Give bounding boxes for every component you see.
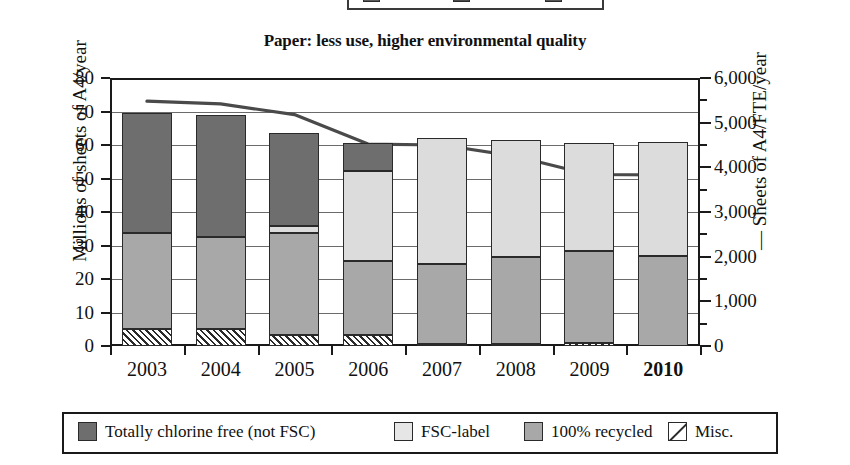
y-tick-right: [700, 77, 711, 79]
x-tick: [479, 346, 481, 355]
bar-segment-tcf[interactable]: [343, 143, 393, 170]
bar-segment-misc[interactable]: [122, 329, 172, 346]
clipped-legend-swatch-2: [453, 0, 470, 2]
y-tick-label-right: 1,000: [714, 291, 757, 310]
x-tick-label-2003: 2003: [107, 358, 187, 380]
y-tick-label-left: 10: [75, 303, 94, 322]
legend-item-rec[interactable]: 100% recycled: [524, 422, 652, 441]
bar-segment-fsc[interactable]: [638, 142, 688, 256]
y-tick-label-right: 4,000: [714, 157, 757, 176]
y-tick-left: [101, 345, 110, 347]
legend-swatch-misc-icon: [668, 422, 687, 441]
x-tick-label-2006: 2006: [328, 358, 408, 380]
bar-2008[interactable]: [491, 78, 541, 346]
bar-segment-misc[interactable]: [491, 344, 541, 346]
legend-swatch-fsc-icon: [394, 422, 413, 441]
clipped-legend-swatch-1: [363, 0, 380, 2]
y-tick-right: [700, 300, 711, 302]
bar-segment-misc[interactable]: [269, 335, 319, 346]
y-tick-label-left: 60: [75, 135, 94, 154]
bar-segment-fsc[interactable]: [491, 140, 541, 257]
legend-swatch-rec-icon: [524, 422, 543, 441]
y-tick-right: [700, 144, 707, 146]
bar-segment-rec[interactable]: [343, 261, 393, 336]
bar-segment-tcf[interactable]: [269, 133, 319, 226]
y-tick-right: [700, 211, 711, 213]
bar-segment-fsc[interactable]: [417, 138, 467, 264]
bar-2003[interactable]: [122, 78, 172, 346]
y-tick-left: [101, 111, 110, 113]
y-tick-left: [101, 245, 110, 247]
y-tick-label-right: 3,000: [714, 202, 757, 221]
x-tick-label-2008: 2008: [476, 358, 556, 380]
bar-segment-fsc[interactable]: [343, 171, 393, 261]
bar-2010[interactable]: [638, 78, 688, 346]
y-tick-left: [101, 77, 110, 79]
x-tick-label-2010: 2010: [623, 358, 703, 380]
x-tick: [258, 346, 260, 355]
clipped-legend-box-above: [347, 0, 604, 10]
bar-segment-tcf[interactable]: [122, 113, 172, 233]
y-tick-right: [700, 99, 707, 101]
x-tick: [553, 346, 555, 355]
y-tick-right: [700, 166, 711, 168]
chart-legend: Totally chlorine free (not FSC)FSC-label…: [62, 412, 778, 454]
y-tick-right: [700, 122, 711, 124]
y-tick-left: [101, 278, 110, 280]
chart-title: Paper: less use, higher environmental qu…: [0, 31, 850, 51]
bar-segment-misc[interactable]: [417, 344, 467, 346]
bar-segment-misc[interactable]: [564, 343, 614, 346]
bar-2007[interactable]: [417, 78, 467, 346]
y-tick-label-left: 80: [75, 68, 94, 87]
y-tick-left: [101, 178, 110, 180]
bar-2005[interactable]: [269, 78, 319, 346]
legend-label: FSC-label: [421, 422, 490, 441]
y-tick-label-left: 70: [75, 102, 94, 121]
bar-segment-misc[interactable]: [343, 335, 393, 346]
x-tick-label-2004: 2004: [181, 358, 261, 380]
bar-segment-rec[interactable]: [417, 264, 467, 344]
x-tick: [184, 346, 186, 355]
y-tick-label-left: 0: [85, 336, 95, 355]
legend-item-fsc[interactable]: FSC-label: [394, 422, 490, 441]
y-tick-right: [700, 233, 707, 235]
bar-segment-rec[interactable]: [269, 233, 319, 335]
bar-segment-fsc[interactable]: [269, 226, 319, 233]
legend-label: 100% recycled: [551, 422, 652, 441]
y-tick-label-right: 0: [714, 336, 724, 355]
y-tick-label-right: 5,000: [714, 113, 757, 132]
y-tick-right: [700, 278, 707, 280]
bar-segment-rec[interactable]: [491, 257, 541, 344]
legend-swatch-tcf-icon: [78, 422, 97, 441]
x-tick-label-2007: 2007: [402, 358, 482, 380]
bar-segment-misc[interactable]: [196, 329, 246, 346]
y-tick-left: [101, 144, 110, 146]
legend-label: Totally chlorine free (not FSC): [105, 422, 315, 441]
y-tick-right: [700, 323, 707, 325]
x-tick: [331, 346, 333, 355]
bar-2009[interactable]: [564, 78, 614, 346]
bar-2006[interactable]: [343, 78, 393, 346]
legend-item-tcf[interactable]: Totally chlorine free (not FSC): [78, 422, 315, 441]
y-tick-right: [700, 189, 707, 191]
bar-segment-tcf[interactable]: [196, 115, 246, 237]
legend-item-misc[interactable]: Misc.: [668, 422, 733, 441]
y-tick-label-left: 50: [75, 169, 94, 188]
y-tick-label-right: 6,000: [714, 68, 757, 87]
y-tick-left: [101, 312, 110, 314]
y-tick-right: [700, 256, 711, 258]
x-tick: [405, 346, 407, 355]
bar-segment-rec[interactable]: [122, 233, 172, 329]
y-tick-label-left: 40: [75, 202, 94, 221]
bar-segment-fsc[interactable]: [564, 143, 614, 251]
clipped-legend-swatch-3: [545, 0, 562, 2]
y-tick-label-left: 20: [75, 269, 94, 288]
legend-label: Misc.: [695, 422, 733, 441]
bar-segment-rec[interactable]: [196, 237, 246, 329]
x-tick-label-2005: 2005: [254, 358, 334, 380]
bar-2004[interactable]: [196, 78, 246, 346]
bar-segment-rec[interactable]: [638, 256, 688, 346]
y-tick-label-left: 30: [75, 236, 94, 255]
bar-segment-rec[interactable]: [564, 251, 614, 344]
x-tick-label-2009: 2009: [549, 358, 629, 380]
